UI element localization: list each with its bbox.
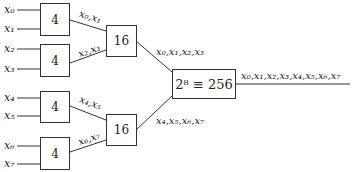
- input-x7: x₇: [4, 158, 15, 169]
- level2-output-1: x₀,x₁,x₂,x₃: [156, 47, 204, 57]
- level1-box-3: 4: [40, 91, 70, 123]
- level2-box-1: 16: [106, 25, 137, 57]
- level2-output-2: x₄,x₅,x₆,x₇: [156, 116, 204, 126]
- input-x0: x₀: [4, 4, 15, 15]
- level1-box-4: 4: [40, 137, 70, 170]
- input-x2: x₂: [4, 43, 15, 54]
- level2-box-2: 16: [106, 114, 137, 146]
- level1-box-1: 4: [40, 3, 70, 36]
- input-x6: x₆: [4, 140, 15, 151]
- input-x1: x₁: [4, 23, 15, 34]
- level1-box-2: 4: [40, 44, 70, 77]
- final-output: x₀,x₁,x₂,x₃,x₄,x₅,x₆,x₇: [241, 71, 340, 81]
- input-x5: x₅: [4, 110, 15, 121]
- level3-box: 2⁸ ≡ 256: [172, 69, 236, 99]
- input-x4: x₄: [4, 92, 15, 103]
- input-x3: x₃: [4, 63, 15, 74]
